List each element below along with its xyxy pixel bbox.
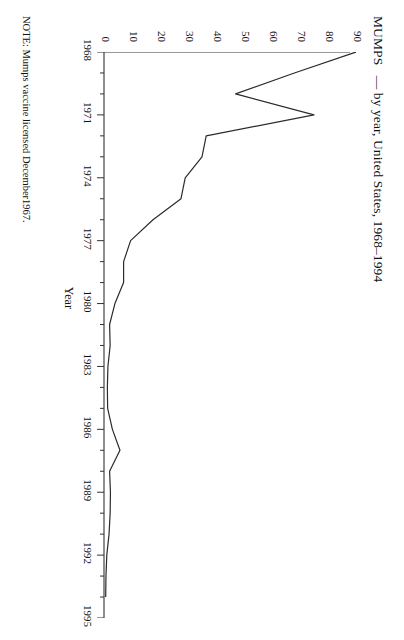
y-tick-label: 70 — [296, 22, 308, 42]
page-title: MUMPS — by year, United States, 1968–199… — [370, 16, 386, 282]
x-tick-label: 1977 — [82, 228, 94, 250]
x-tick-label: 1968 — [82, 39, 94, 61]
rotated-figure-wrapper: MUMPS — by year, United States, 1968–199… — [0, 0, 404, 640]
title-main: MUMPS — [371, 16, 386, 65]
x-tick-label: 1986 — [82, 416, 94, 438]
y-tick-label: 80 — [324, 22, 336, 42]
line-chart-svg — [66, 52, 356, 618]
y-tick-label: 40 — [212, 22, 224, 42]
data-line — [106, 52, 356, 597]
y-tick-label: 0 — [100, 22, 112, 42]
y-tick-label: 30 — [184, 22, 196, 42]
x-tick-label: 1989 — [82, 479, 94, 501]
x-tick-label: 1971 — [82, 102, 94, 124]
title-subtitle: — by year, United States, 1968–1994 — [371, 76, 386, 283]
y-tick-label: 20 — [156, 22, 168, 42]
y-tick-label: 90 — [352, 22, 364, 42]
chart-series — [106, 52, 356, 597]
figure: MUMPS — by year, United States, 1968–199… — [0, 0, 404, 640]
y-tick-label: 10 — [128, 22, 140, 42]
y-tick-label: 50 — [240, 22, 252, 42]
chart-axes — [97, 52, 356, 618]
x-axis-title: Year — [61, 287, 76, 309]
chart-plot-area: 1968197119741977198019831986198919921995… — [66, 52, 356, 618]
figure-note: NOTE: Mumps vaccine licensed December196… — [21, 16, 32, 223]
x-tick-label: 1974 — [82, 165, 94, 187]
x-tick-label: 1980 — [82, 291, 94, 313]
y-tick-label: 60 — [268, 22, 280, 42]
figure-page: MUMPS — by year, United States, 1968–199… — [0, 0, 404, 640]
x-tick-label: 1995 — [82, 605, 94, 627]
x-tick-label: 1983 — [82, 353, 94, 375]
x-tick-label: 1992 — [82, 542, 94, 564]
